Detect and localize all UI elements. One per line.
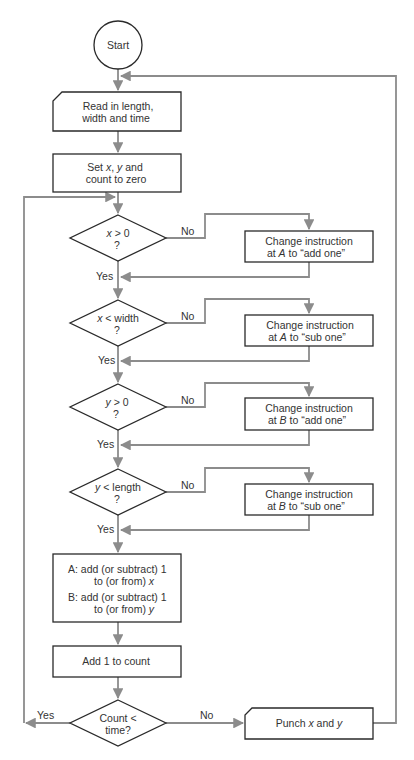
arrow-action-2-merge	[121, 346, 309, 361]
read-input-line-1: Read in length,	[83, 100, 154, 112]
arrow-action-3-merge	[121, 430, 309, 445]
init-line-1: Set x, y and	[87, 161, 143, 173]
decision-2-condition: x < width	[96, 312, 139, 324]
decision-3-no-label: No	[181, 394, 195, 406]
loop-check-line-1: Count <	[99, 712, 136, 724]
action-4-box: Change instruction at B to “sub one”	[245, 484, 373, 515]
action-1-box: Change instruction at A to “add one”	[245, 231, 373, 262]
arrow-action-1-merge	[121, 262, 309, 277]
action-2-line-2: at A to “sub one”	[268, 331, 346, 343]
decision-2-question: ?	[114, 324, 120, 336]
update-b-line-1: B: add (or subtract) 1	[68, 591, 167, 603]
update-process-box: A: add (or subtract) 1 to (or from) x B:…	[53, 554, 181, 622]
loop-check-line-2: time?	[105, 724, 131, 736]
action-3-box: Change instruction at B to “add one”	[245, 398, 373, 430]
action-1-line-1: Change instruction	[265, 235, 353, 247]
start-label: Start	[107, 39, 129, 51]
counter-label: Add 1 to count	[82, 655, 150, 667]
decision-1: x > 0 ? No Yes	[70, 215, 195, 282]
decision-3-yes-label: Yes	[97, 438, 114, 450]
output-card: Punch x and y	[245, 708, 373, 739]
loop-check-yes-label: Yes	[37, 709, 54, 721]
arrow-action-4-merge	[121, 515, 309, 530]
decision-1-no-label: No	[181, 225, 195, 237]
decision-3: y > 0 ? No Yes	[70, 384, 195, 450]
output-label: Punch x and y	[276, 717, 343, 729]
read-input-line-2: width and time	[81, 112, 150, 124]
decision-4: y < length ? No Yes	[70, 469, 195, 535]
read-input-card: Read in length, width and time	[53, 92, 181, 131]
decision-4-no-label: No	[181, 479, 195, 491]
decision-4-question: ?	[114, 493, 120, 505]
action-2-line-1: Change instruction	[266, 319, 354, 331]
decision-4-condition: y < length	[94, 481, 141, 493]
decision-3-condition: y > 0	[104, 396, 128, 408]
decision-1-question: ?	[114, 239, 120, 251]
init-line-2: count to zero	[86, 173, 147, 185]
update-a-line-1: A: add (or subtract) 1	[68, 563, 167, 575]
decision-2-yes-label: Yes	[98, 354, 115, 366]
decision-1-yes-label: Yes	[96, 270, 113, 282]
start-terminal: Start	[94, 21, 142, 69]
update-b-line-2: to (or from) y	[94, 603, 155, 615]
action-3-line-1: Change instruction	[265, 402, 353, 414]
loop-check-no-label: No	[200, 709, 214, 721]
action-2-box: Change instruction at A to “sub one”	[245, 315, 373, 346]
action-4-line-1: Change instruction	[265, 488, 353, 500]
action-3-line-2: at B to “add one”	[268, 414, 347, 426]
counter-process-box: Add 1 to count	[53, 646, 181, 677]
action-4-line-2: at B to “sub one”	[267, 500, 345, 512]
decision-4-yes-label: Yes	[97, 523, 114, 535]
flowchart: Start Read in length, width and time Set…	[0, 0, 414, 760]
decision-2: x < width ? No Yes	[70, 300, 195, 366]
action-1-line-2: at A to “add one”	[267, 247, 346, 259]
update-a-line-2: to (or from) x	[94, 575, 155, 587]
decision-2-no-label: No	[181, 310, 195, 322]
decision-3-question: ?	[113, 408, 119, 420]
init-process-box: Set x, y and count to zero	[53, 154, 181, 192]
decision-1-condition: x > 0	[105, 227, 129, 239]
